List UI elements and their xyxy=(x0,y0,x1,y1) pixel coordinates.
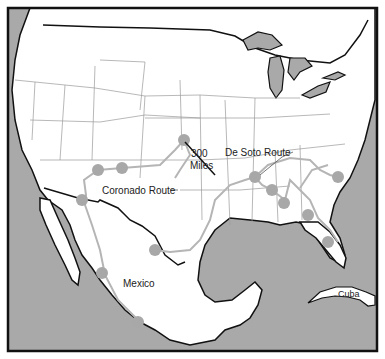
coronado-route-label: Coronado Route xyxy=(102,185,175,196)
cuba-label: Cuba xyxy=(338,289,360,300)
map-canvas xyxy=(0,0,385,359)
scale-value-label: 300 xyxy=(191,148,208,159)
mexico-label: Mexico xyxy=(123,278,155,289)
de-soto-route-label: De Soto Route xyxy=(225,147,291,158)
scale-unit-label: Miles xyxy=(190,160,213,171)
